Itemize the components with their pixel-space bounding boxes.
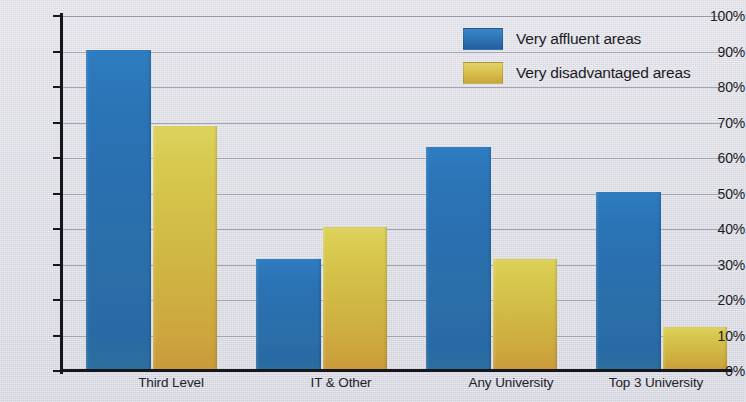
bar-it-other-disadvantaged (323, 227, 387, 371)
y-tick-label-80: 80% (693, 80, 745, 94)
gridline-100 (62, 16, 722, 17)
bar-any-university-disadvantaged (493, 259, 557, 371)
y-tick-80 (53, 86, 62, 88)
x-category-label-top3-university: Top 3 University (566, 376, 746, 390)
bar-third-level-affluent (86, 50, 151, 371)
y-tick-60 (53, 157, 62, 159)
y-tick-20 (53, 299, 62, 301)
y-tick-70 (53, 122, 62, 124)
x-category-label-third-level: Third Level (86, 376, 256, 390)
x-category-label-it-other: IT & Other (256, 376, 426, 390)
y-tick-label-70: 70% (693, 116, 745, 130)
bar-it-other-affluent (256, 259, 321, 371)
legend: Very affluent areas Very disadvantaged a… (463, 22, 690, 90)
y-tick-label-20: 20% (693, 293, 745, 307)
x-axis-line (60, 369, 732, 372)
y-tick-label-10: 10% (693, 329, 745, 343)
bar-top3-university-affluent (596, 192, 661, 371)
legend-label-affluent: Very affluent areas (516, 31, 641, 47)
y-tick-30 (53, 264, 62, 266)
y-tick-label-90: 90% (693, 45, 745, 59)
y-tick-label-50: 50% (693, 187, 745, 201)
bar-any-university-affluent (426, 147, 491, 371)
y-tick-90 (53, 51, 62, 53)
y-tick-label-40: 40% (693, 222, 745, 236)
y-tick-0 (53, 370, 62, 372)
legend-label-disadvantaged: Very disadvantaged areas (516, 65, 690, 81)
y-tick-label-30: 30% (693, 258, 745, 272)
legend-item-affluent: Very affluent areas (463, 22, 690, 56)
y-tick-50 (53, 193, 62, 195)
legend-swatch-affluent-icon (463, 28, 503, 50)
bar-third-level-disadvantaged (153, 126, 217, 371)
y-tick-10 (53, 335, 62, 337)
y-tick-100 (53, 15, 62, 17)
y-tick-40 (53, 228, 62, 230)
legend-item-disadvantaged: Very disadvantaged areas (463, 56, 690, 90)
y-tick-label-60: 60% (693, 151, 745, 165)
y-tick-label-100: 100% (693, 9, 745, 23)
legend-swatch-disadvantaged-icon (463, 62, 503, 84)
gridline-70 (62, 123, 722, 124)
